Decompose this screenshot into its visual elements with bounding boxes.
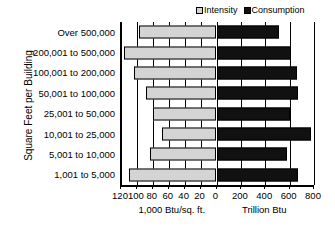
bar-row bbox=[121, 42, 314, 62]
x-axis-tick bbox=[168, 185, 169, 189]
bar-row bbox=[121, 63, 314, 83]
x-axis-tick-label: 60 bbox=[162, 190, 173, 201]
intensity-bar[interactable] bbox=[153, 107, 217, 120]
category-label: 50,001 to 100,000 bbox=[18, 83, 118, 103]
intensity-bar[interactable] bbox=[146, 87, 217, 100]
category-label: Over 500,000 bbox=[18, 22, 118, 42]
bar-row bbox=[121, 22, 314, 42]
intensity-bar[interactable] bbox=[129, 168, 217, 181]
consumption-bar[interactable] bbox=[217, 107, 290, 120]
x-axis-tick bbox=[264, 185, 265, 189]
gridline bbox=[314, 22, 315, 185]
chart-legend: Intensity Consumption bbox=[196, 5, 305, 16]
intensity-bar[interactable] bbox=[139, 26, 217, 39]
category-label: 10,001 to 25,000 bbox=[18, 124, 118, 144]
intensity-swatch-icon bbox=[196, 7, 203, 14]
category-axis-labels: Over 500,000 200,001 to 500,000 100,001 … bbox=[18, 22, 118, 185]
energy-bar-chart: Intensity Consumption Square Feet per Bu… bbox=[0, 0, 335, 230]
x-axis-tick-label: 600 bbox=[281, 190, 297, 201]
consumption-bar[interactable] bbox=[217, 148, 288, 161]
x-axis-line bbox=[120, 185, 314, 187]
x-axis-tick-label: 20 bbox=[194, 190, 205, 201]
x-axis-tick-label: 100 bbox=[128, 190, 144, 201]
x-axis-tick bbox=[216, 185, 217, 189]
category-label: 1,001 to 5,000 bbox=[18, 165, 118, 185]
intensity-bar[interactable] bbox=[162, 128, 217, 141]
x-axis-tick bbox=[152, 185, 153, 189]
consumption-swatch-icon bbox=[244, 7, 251, 14]
bar-row bbox=[121, 124, 314, 144]
bar-rows bbox=[121, 22, 314, 185]
consumption-bar[interactable] bbox=[217, 168, 298, 181]
consumption-bar[interactable] bbox=[217, 46, 291, 59]
bar-row bbox=[121, 144, 314, 164]
category-label: 25,001 to 50,000 bbox=[18, 104, 118, 124]
legend-item-intensity: Intensity bbox=[196, 5, 238, 16]
x-axis-tick bbox=[184, 185, 185, 189]
x-axis-tick-label: 400 bbox=[256, 190, 272, 201]
legend-label-intensity: Intensity bbox=[204, 5, 238, 16]
intensity-bar[interactable] bbox=[124, 46, 216, 59]
right-axis-title: Trillion Btu bbox=[242, 204, 287, 215]
category-label: 100,001 to 200,000 bbox=[18, 63, 118, 83]
x-axis-tick-label: 40 bbox=[178, 190, 189, 201]
x-axis-tick bbox=[120, 185, 121, 189]
intensity-bar[interactable] bbox=[150, 148, 216, 161]
legend-label-consumption: Consumption bbox=[252, 5, 305, 16]
x-axis-tick-label: 200 bbox=[232, 190, 248, 201]
left-axis-title: 1,000 Btu/sq. ft. bbox=[138, 204, 205, 215]
x-axis-tick-label: 120 bbox=[112, 190, 128, 201]
legend-item-consumption: Consumption bbox=[244, 5, 305, 16]
bar-row bbox=[121, 165, 314, 185]
x-axis-tick bbox=[136, 185, 137, 189]
plot-area bbox=[120, 22, 314, 185]
consumption-bar[interactable] bbox=[217, 87, 299, 100]
consumption-bar[interactable] bbox=[217, 66, 297, 79]
bar-row bbox=[121, 83, 314, 103]
x-axis-tick bbox=[240, 185, 241, 189]
intensity-bar[interactable] bbox=[134, 66, 217, 79]
category-label: 200,001 to 500,000 bbox=[18, 42, 118, 62]
consumption-bar[interactable] bbox=[217, 128, 311, 141]
consumption-bar[interactable] bbox=[217, 26, 279, 39]
x-axis-tick bbox=[313, 185, 314, 189]
x-axis-tick bbox=[289, 185, 290, 189]
category-label: 5,001 to 10,000 bbox=[18, 144, 118, 164]
bar-row bbox=[121, 104, 314, 124]
x-axis-tick bbox=[200, 185, 201, 189]
x-axis-tick-label: 80 bbox=[147, 190, 158, 201]
x-axis-tick-label: 800 bbox=[305, 190, 321, 201]
x-axis-tick-label: 0 bbox=[213, 190, 218, 201]
